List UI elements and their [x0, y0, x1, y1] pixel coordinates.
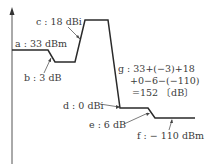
label-b-feeder-loss: b : 3 dB	[24, 72, 61, 83]
label-e-rx-feeder-loss: e : 6 dB	[89, 119, 126, 130]
arrowhead-f-icon	[170, 119, 173, 123]
path-loss-line-2: +0−6−(−110)	[130, 75, 199, 86]
axis-arrow-icon	[10, 7, 15, 15]
arrowhead-e-icon	[146, 113, 150, 116]
path-loss-line-1: g : 33+(−3)+18	[118, 63, 195, 74]
label-a-transmit-power: a : 33 dBm	[15, 38, 67, 49]
arrowhead-b-icon	[48, 58, 51, 62]
path-loss-line-3: =152 〔dB〕	[132, 87, 194, 98]
label-f-receive-level: f : − 110 dBm	[137, 130, 204, 141]
label-c-tx-antenna-gain: c : 18 dBi	[36, 16, 82, 27]
pointer-e	[124, 113, 148, 124]
label-d-rx-antenna-gain: d : 0 dBi	[63, 100, 104, 111]
